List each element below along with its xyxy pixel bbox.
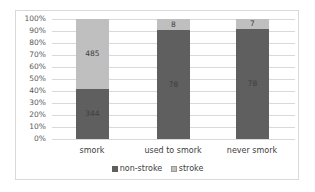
data-label: 78 <box>236 80 269 88</box>
legend: non-stroke stroke <box>0 164 315 174</box>
data-label: 485 <box>76 50 109 58</box>
bar-never-smork: 787 <box>236 19 269 139</box>
y-tick-label: 80% <box>16 39 46 47</box>
x-tick-label: never smork <box>212 146 292 155</box>
bar-segment-stroke: 485 <box>76 19 109 89</box>
x-tick-label: used to smork <box>133 146 213 155</box>
legend-swatch-non-stroke <box>112 166 118 172</box>
bar-segment-non-stroke: 78 <box>236 29 269 139</box>
y-tick-label: 50% <box>16 75 46 83</box>
y-tick-label: 40% <box>16 87 46 95</box>
bar-segment-stroke: 8 <box>157 19 190 30</box>
legend-item-non-stroke: non-stroke <box>112 164 163 173</box>
data-label: 7 <box>236 20 269 28</box>
y-tick-label: 10% <box>16 123 46 131</box>
legend-item-stroke: stroke <box>171 164 204 173</box>
gridline <box>52 139 295 140</box>
bar-segment-stroke: 7 <box>236 19 269 29</box>
legend-label-non-stroke: non-stroke <box>120 164 163 173</box>
y-tick-label: 70% <box>16 51 46 59</box>
data-label: 78 <box>157 81 190 89</box>
legend-swatch-stroke <box>171 166 177 172</box>
x-tick-label: smork <box>52 146 132 155</box>
bar-used-to-smork: 788 <box>157 19 190 139</box>
bar-segment-non-stroke: 78 <box>157 30 190 139</box>
y-tick-label: 60% <box>16 63 46 71</box>
y-tick-label: 100% <box>16 15 46 23</box>
y-tick-label: 20% <box>16 111 46 119</box>
bar-smork: 344485 <box>76 19 109 139</box>
y-tick-label: 30% <box>16 99 46 107</box>
data-label: 344 <box>76 110 109 118</box>
data-label: 8 <box>157 21 190 29</box>
y-tick-label: 90% <box>16 27 46 35</box>
y-tick-label: 0% <box>16 135 46 143</box>
legend-label-stroke: stroke <box>179 164 204 173</box>
bar-segment-non-stroke: 344 <box>76 89 109 139</box>
